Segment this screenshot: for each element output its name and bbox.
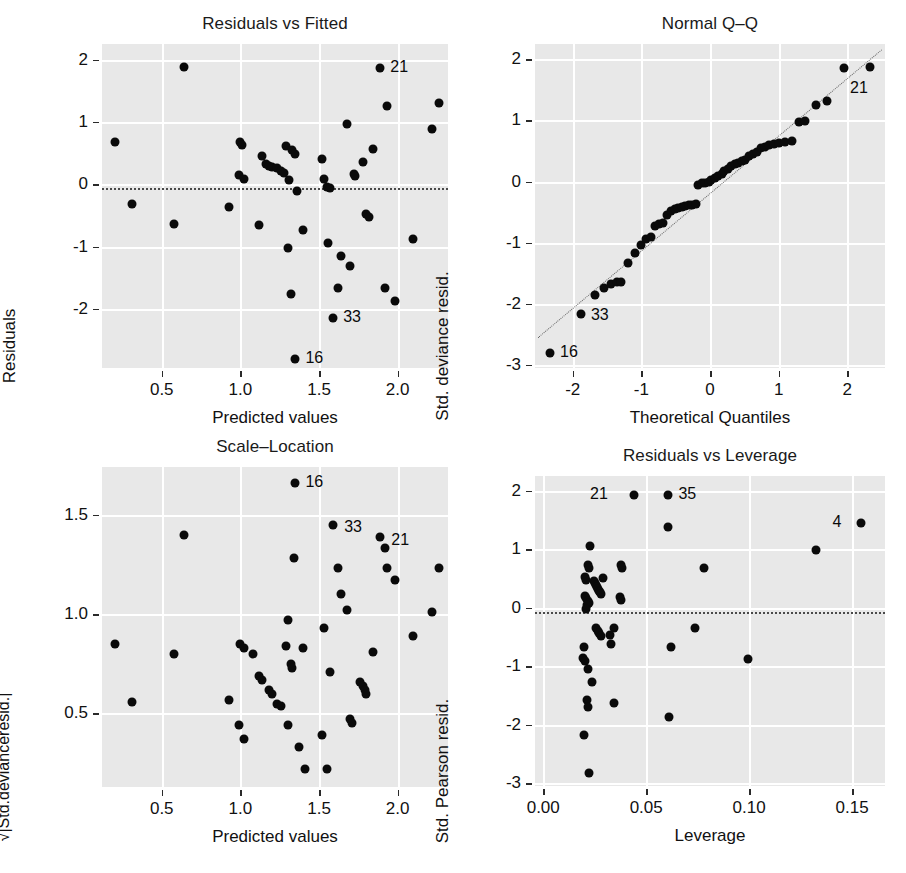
data-point <box>333 564 342 573</box>
y-tick-label: -2 <box>477 715 521 735</box>
data-point <box>248 649 257 658</box>
data-point <box>282 641 291 650</box>
data-point <box>326 667 335 676</box>
y-tick-label: -2 <box>44 299 88 319</box>
data-point <box>584 563 593 572</box>
data-point <box>346 261 355 270</box>
x-tick-label: 0.15 <box>836 798 869 818</box>
plot-area <box>102 467 448 787</box>
outlier-label: 21 <box>390 58 408 76</box>
data-point <box>822 97 831 106</box>
gridline-horizontal <box>535 783 885 785</box>
data-point <box>646 232 655 241</box>
data-point <box>581 605 590 614</box>
y-tick-mark <box>526 120 532 122</box>
data-point <box>382 102 391 111</box>
plot-area <box>535 44 885 368</box>
x-tick-mark <box>573 371 575 377</box>
data-point <box>585 542 594 551</box>
y-tick-mark <box>526 666 532 668</box>
y-tick-label: 1 <box>44 112 88 132</box>
gridline-horizontal <box>102 309 448 311</box>
y-tick-label: -1 <box>44 237 88 257</box>
data-point <box>665 712 674 721</box>
y-axis-label: √|Std.devianceresid.| <box>0 627 13 873</box>
y-tick-mark <box>93 122 99 124</box>
data-point <box>322 765 331 774</box>
data-point <box>699 563 708 572</box>
x-tick-label: 0 <box>705 380 714 400</box>
gridline-vertical <box>646 476 648 786</box>
data-point <box>291 478 300 487</box>
data-point <box>348 719 357 728</box>
gridline-horizontal <box>102 184 448 186</box>
x-tick-label: 2.0 <box>386 380 410 400</box>
outlier-label: 16 <box>560 343 578 361</box>
data-point <box>623 259 632 268</box>
data-point <box>286 289 295 298</box>
data-point <box>616 277 625 286</box>
gridline-vertical <box>641 44 643 368</box>
data-point <box>179 530 188 539</box>
x-tick-label: 0.5 <box>150 380 174 400</box>
data-point <box>324 238 333 247</box>
y-axis-label-text: √|Std.devianceresid.| <box>0 693 12 842</box>
data-point <box>617 596 626 605</box>
data-point <box>234 721 243 730</box>
data-point <box>110 137 119 146</box>
y-tick-mark <box>526 783 532 785</box>
data-point <box>299 225 308 234</box>
x-tick-label: 1 <box>774 380 783 400</box>
x-tick-label: 1.5 <box>307 799 331 819</box>
data-point <box>376 532 385 541</box>
data-point <box>225 203 234 212</box>
x-tick-label: -1 <box>634 380 649 400</box>
outlier-label: 21 <box>391 531 409 549</box>
data-point <box>288 663 297 672</box>
data-point <box>283 721 292 730</box>
x-axis-label: Predicted values <box>102 408 448 428</box>
data-point <box>584 665 593 674</box>
x-tick-label: 0.05 <box>630 798 663 818</box>
data-point <box>857 518 866 527</box>
gridline-horizontal <box>535 243 885 245</box>
outlier-label: 4 <box>832 513 841 531</box>
y-tick-label: -3 <box>477 355 521 375</box>
y-tick-mark <box>526 365 532 367</box>
data-point <box>409 631 418 640</box>
y-tick-label: 2 <box>477 49 521 69</box>
data-point <box>390 296 399 305</box>
x-tick-mark <box>240 371 242 377</box>
data-point <box>299 643 308 652</box>
data-point <box>277 701 286 710</box>
data-point <box>359 157 368 166</box>
x-tick-label: 0.10 <box>733 798 766 818</box>
x-axis-label: Predicted values <box>102 827 448 847</box>
data-point <box>630 249 639 258</box>
x-tick-mark <box>749 789 751 795</box>
data-point <box>618 563 627 572</box>
chart-title: Residuals vs Fitted <box>102 14 448 34</box>
data-point <box>691 200 700 209</box>
y-tick-mark <box>526 725 532 727</box>
gridline-vertical <box>240 44 242 368</box>
x-tick-label: 0.5 <box>150 799 174 819</box>
data-point <box>800 117 809 126</box>
gridline-vertical <box>162 44 164 368</box>
y-tick-mark <box>93 60 99 62</box>
data-point <box>546 349 555 358</box>
gridline-vertical <box>319 44 321 368</box>
data-point <box>351 172 360 181</box>
data-point <box>285 175 294 184</box>
figure-root: Residuals vs Fitted2133160.51.01.52.0210… <box>0 0 906 873</box>
data-point <box>329 314 338 323</box>
y-tick-label: -3 <box>477 773 521 793</box>
outlier-label: 35 <box>678 485 696 503</box>
data-point <box>337 590 346 599</box>
data-point <box>690 624 699 633</box>
y-tick-mark <box>526 182 532 184</box>
y-tick-mark <box>93 515 99 517</box>
data-point <box>343 119 352 128</box>
data-point <box>434 564 443 573</box>
data-point <box>368 647 377 656</box>
